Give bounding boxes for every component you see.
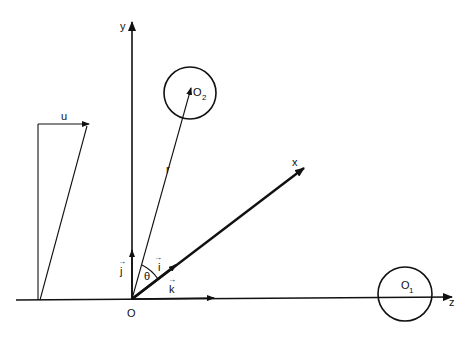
i-unit-label: i <box>158 261 160 273</box>
u-vector <box>38 124 89 300</box>
z-axis-label: z <box>449 296 455 308</box>
r-vector-label: r <box>166 163 170 175</box>
x-axis <box>132 168 304 299</box>
y-axis-label: y <box>120 20 126 32</box>
body-o2-label: O <box>193 86 202 98</box>
body-o1-circle <box>378 267 432 321</box>
origin-label: O <box>127 307 136 319</box>
j-unit-label: j <box>119 265 122 277</box>
z-axis <box>16 297 452 300</box>
x-axis-label: x <box>292 156 298 168</box>
r-vector <box>132 88 191 299</box>
body-o1-subscript: 1 <box>409 286 414 295</box>
body-o2-subscript: 2 <box>202 93 207 102</box>
coordinate-diagram: y x z O u r θ → j → i → k O 2 O 1 <box>0 0 470 339</box>
u-vector-label: u <box>61 110 67 122</box>
theta-label: θ <box>144 270 150 282</box>
k-unit-label: k <box>169 283 175 295</box>
